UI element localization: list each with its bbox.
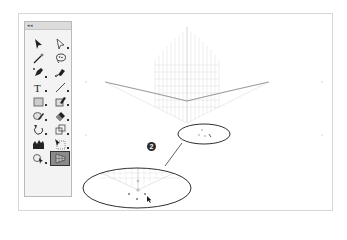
scale-tool[interactable] bbox=[50, 123, 70, 137]
flyout-indicator bbox=[67, 47, 69, 49]
selection-tool[interactable] bbox=[28, 37, 48, 51]
lasso-tool[interactable] bbox=[50, 51, 70, 65]
direct-selection-tool[interactable] bbox=[50, 37, 70, 51]
tools-panel-header[interactable]: ◂◂ bbox=[25, 22, 71, 30]
shape-builder-tool[interactable] bbox=[28, 151, 48, 165]
magic-wand-icon bbox=[32, 52, 45, 65]
flyout-indicator bbox=[67, 90, 69, 92]
arrow-white-icon bbox=[54, 38, 67, 51]
shape-builder-icon bbox=[32, 152, 45, 165]
flyout-indicator bbox=[67, 119, 69, 121]
perspective-grid-tool[interactable] bbox=[50, 151, 70, 165]
type-tool[interactable]: T bbox=[28, 80, 48, 94]
svg-text:T: T bbox=[34, 82, 41, 94]
line-icon bbox=[54, 81, 67, 94]
brush-icon bbox=[54, 66, 67, 79]
free-transform-tool[interactable] bbox=[50, 137, 70, 151]
flyout-indicator bbox=[45, 119, 47, 121]
rotate-icon bbox=[32, 123, 45, 136]
pen-tool[interactable] bbox=[28, 66, 48, 80]
magic-wand-tool[interactable] bbox=[28, 51, 48, 65]
free-transform-icon bbox=[54, 138, 67, 151]
collapse-icon[interactable]: ◂◂ bbox=[27, 22, 33, 29]
rectangle-tool[interactable] bbox=[28, 94, 48, 108]
scale-icon bbox=[54, 123, 67, 136]
pen-icon bbox=[32, 66, 45, 79]
flyout-indicator bbox=[45, 162, 47, 164]
perspective-grid bbox=[155, 28, 219, 123]
shaper-tool[interactable] bbox=[50, 94, 70, 108]
flyout-indicator bbox=[45, 133, 47, 135]
pencil-icon bbox=[32, 109, 45, 122]
mouse-cursor-icon bbox=[147, 196, 151, 203]
eraser-tool[interactable] bbox=[50, 108, 70, 122]
tools-panel: ◂◂ T bbox=[24, 21, 72, 197]
callout-connector bbox=[165, 143, 182, 166]
flyout-indicator bbox=[67, 147, 69, 149]
shaper-icon bbox=[54, 95, 67, 108]
perspective-grid-icon bbox=[54, 152, 67, 165]
pencil-tool[interactable] bbox=[28, 108, 48, 122]
rotate-tool[interactable] bbox=[28, 123, 48, 137]
rectangle-icon bbox=[32, 95, 45, 108]
graph-tool[interactable] bbox=[28, 137, 48, 151]
blob-brush-tool[interactable] bbox=[50, 66, 70, 80]
flyout-indicator bbox=[67, 104, 69, 106]
arrow-black-icon bbox=[32, 38, 45, 51]
flyout-indicator bbox=[45, 76, 47, 78]
graph-icon bbox=[32, 138, 45, 151]
zoom-magnified-ellipse bbox=[83, 165, 191, 208]
zoom-source-ellipse bbox=[178, 124, 230, 144]
eraser-icon bbox=[54, 109, 67, 122]
grid-widgets[interactable] bbox=[85, 27, 323, 136]
step-badge: 2 bbox=[147, 142, 156, 151]
lasso-icon bbox=[54, 52, 67, 65]
flyout-indicator bbox=[67, 133, 69, 135]
type-icon: T bbox=[32, 81, 45, 94]
tools-grid: T bbox=[25, 36, 71, 167]
flyout-indicator bbox=[45, 90, 47, 92]
line-segment-tool[interactable] bbox=[50, 80, 70, 94]
flyout-indicator bbox=[45, 104, 47, 106]
